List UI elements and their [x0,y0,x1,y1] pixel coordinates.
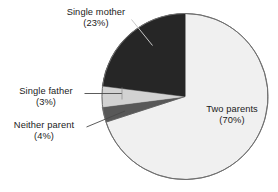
pie-label-two-parents-value: (70%) [196,115,268,126]
pie-chart-figure: Single mother (23%) Single father (3%) N… [0,0,278,192]
pie-label-single-father-text: Single father [19,86,73,96]
pie-label-neither-parent: Neither parent (4%) [2,120,86,142]
pie-label-single-mother-text: Single mother [67,7,126,17]
pie-label-single-mother: Single mother (23%) [52,7,140,29]
pie-label-single-father: Single father (3%) [8,86,84,108]
pie-label-two-parents-text: Two parents [206,104,258,114]
pie-label-two-parents: Two parents (70%) [196,104,268,126]
pie-label-single-mother-value: (23%) [52,18,140,29]
pie-label-neither-parent-text: Neither parent [14,120,74,130]
pie-label-single-father-value: (3%) [8,97,84,108]
pie-label-neither-parent-value: (4%) [2,131,86,142]
